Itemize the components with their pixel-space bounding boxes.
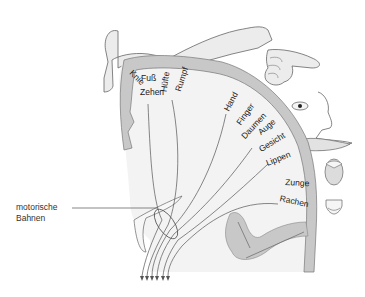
hand-figure [265, 49, 320, 85]
pupil [298, 104, 302, 108]
brain-section-drawing [0, 0, 365, 297]
callout-line1: motorische [16, 202, 58, 213]
callout-motor-pathways: motorische Bahnen [16, 202, 58, 224]
pathway-arrowheads [140, 276, 170, 281]
homunculus-diagram: Knie Fuß Zehen Hüfte Rumpf Hand Finger D… [0, 0, 365, 297]
callout-line2: Bahnen [16, 213, 58, 224]
label-zunge: Zunge [285, 178, 310, 188]
label-fuss: Fuß [141, 74, 156, 83]
pharynx-icon [326, 200, 342, 214]
